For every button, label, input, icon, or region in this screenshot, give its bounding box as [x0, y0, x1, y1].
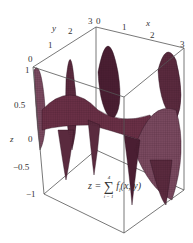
formula-annotation: z = ∑4i = 1 fi(x, y) [88, 177, 141, 193]
z-tick-0: 0 [28, 135, 33, 144]
z-tick-neg-1: −1 [26, 190, 36, 199]
surface-plot [0, 0, 193, 243]
y-tick-3: 3 [88, 17, 93, 26]
x-tick-0: 0 [96, 17, 101, 26]
summation-sign: ∑4i = 1 [104, 179, 114, 195]
formula-args: (x, y) [121, 180, 142, 191]
z-tick-1: 1 [25, 66, 30, 75]
x-tick-2: 2 [150, 31, 155, 40]
y-axis-label: y [52, 24, 56, 33]
sum-upper: 4 [108, 175, 111, 180]
z-tick-neg-0.5: −0.5 [13, 163, 29, 172]
z-tick-0.5: 0.5 [14, 101, 25, 110]
z-axis-label: z [10, 135, 14, 144]
x-tick-3: 3 [180, 40, 185, 49]
y-tick-2: 2 [68, 27, 73, 36]
x-tick-1: 1 [122, 23, 127, 32]
sum-lower: i = 1 [104, 194, 114, 199]
y-tick-1: 1 [48, 41, 53, 50]
x-axis-label: x [146, 19, 150, 28]
y-tick-0: 0 [28, 55, 33, 64]
formula-lhs: z = [88, 180, 101, 191]
